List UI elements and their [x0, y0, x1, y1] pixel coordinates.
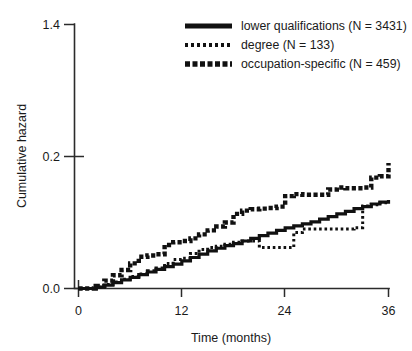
- legend-label-lower-qualifications: lower qualifications (N = 3431): [241, 19, 407, 33]
- x-tick-label-12: 12: [175, 304, 189, 318]
- y-tick-label-top: 1.4: [43, 18, 60, 32]
- legend: lower qualifications (N = 3431) degree (…: [185, 19, 407, 71]
- series-line-occupation-specific: [79, 163, 389, 288]
- y-tick-label-bottom: 0.0: [43, 282, 60, 296]
- x-tick-label-24: 24: [278, 304, 292, 318]
- series-line-lower-qualifications: [79, 200, 389, 288]
- legend-label-occupation-specific: occupation-specific (N = 459): [241, 57, 401, 71]
- x-tick-label-36: 36: [382, 304, 396, 318]
- cumulative-hazard-chart: 1.4 0.2 0.0 0 12 24 36 Time (months) Cum…: [0, 0, 412, 351]
- x-axis-title: Time (months): [191, 331, 271, 345]
- y-axis-title: Cumulative hazard: [15, 104, 29, 208]
- x-tick-label-0: 0: [75, 304, 82, 318]
- y-tick-label-mid: 0.2: [43, 150, 60, 164]
- chart-canvas: 1.4 0.2 0.0 0 12 24 36 Time (months) Cum…: [0, 0, 412, 351]
- series-group: [79, 163, 389, 288]
- legend-label-degree: degree (N = 133): [241, 38, 334, 52]
